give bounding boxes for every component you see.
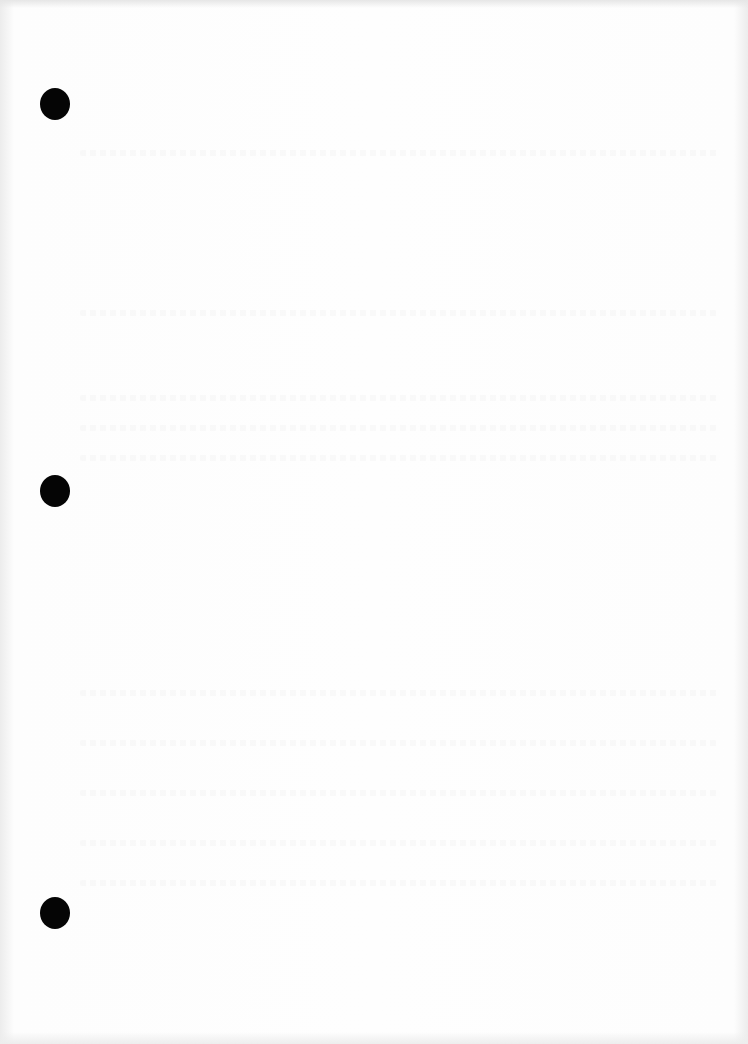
bleed-through-line xyxy=(80,690,718,696)
bleed-through-line xyxy=(80,395,718,401)
bleed-through-line xyxy=(80,880,718,886)
bleed-through-line xyxy=(80,425,718,431)
scanned-blank-page xyxy=(0,0,748,1044)
bleed-through-line xyxy=(80,455,718,461)
punch-hole-icon xyxy=(40,475,70,507)
bleed-through-line xyxy=(80,740,718,746)
bleed-through-line xyxy=(80,840,718,846)
bleed-through-line xyxy=(80,150,718,156)
punch-hole-icon xyxy=(40,88,70,120)
bleed-through-line xyxy=(80,310,718,316)
punch-hole-icon xyxy=(40,897,70,929)
bleed-through-line xyxy=(80,790,718,796)
